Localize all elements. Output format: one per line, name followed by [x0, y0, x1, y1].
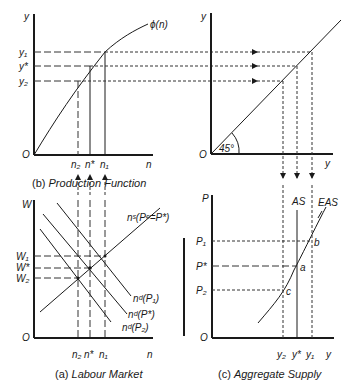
- wstar-tick: W*: [16, 262, 30, 273]
- w1-tick: W₁: [16, 251, 29, 262]
- n1-tick: n₁: [100, 159, 109, 170]
- origin-label: O: [200, 332, 208, 343]
- point-a: a: [300, 262, 306, 273]
- labour-demand-p2: [40, 229, 111, 322]
- p-axis-label: P: [202, 193, 209, 204]
- nstar-tick: n*: [85, 159, 96, 170]
- w2-tick: W₂: [16, 273, 29, 284]
- y1-tick: y₁: [305, 349, 314, 360]
- labour-demand-p1: [57, 203, 131, 296]
- angle-label: 45°: [219, 143, 234, 154]
- supply-label: nˢ(Pᵉ=P*): [127, 212, 169, 223]
- production-curve: [34, 24, 148, 155]
- caption: (a) Labour Market: [55, 368, 143, 380]
- point-b: b: [314, 237, 320, 248]
- ystar-tick: y*: [291, 349, 302, 360]
- x-axis-label: y: [325, 349, 332, 360]
- n-axis-label: n: [147, 349, 153, 360]
- economic-model-diagram: y O n ϕ(n) y₁ y* y₂ n₂ n* n₁ (b) Product…: [0, 0, 354, 383]
- y-axis-label: y: [23, 11, 30, 22]
- demand-label-p2: nᵈ(P₂): [122, 322, 149, 333]
- pstar-tick: P*: [196, 261, 208, 272]
- caption: (b) Production Function: [32, 177, 146, 189]
- eas-label: EAS: [318, 197, 338, 208]
- origin-label: O: [199, 149, 207, 160]
- y2-tick: y₂: [276, 349, 286, 360]
- w-axis-label: W: [22, 199, 33, 210]
- n2-tick: n₂: [71, 159, 81, 170]
- y1-tick: y₁: [18, 47, 27, 58]
- caption: (c) Aggregate Supply: [218, 368, 323, 380]
- point-c: c: [286, 286, 291, 297]
- n1-tick: n₁: [99, 349, 108, 360]
- n-axis-label: n: [146, 159, 152, 170]
- ystar-tick: y*: [18, 61, 29, 72]
- p2-tick: P₂: [196, 285, 207, 296]
- transfer-arrows: [78, 52, 312, 81]
- origin-label: O: [22, 149, 30, 160]
- origin-label: O: [22, 332, 30, 343]
- aggregate-supply-panel: P O y P₁ P* P₂ y₂ y* y₁ AS EAS b a c (c)…: [184, 185, 338, 380]
- x-axis-label: y: [324, 158, 331, 169]
- eas-curve: [258, 207, 326, 323]
- y-axis-label: y: [200, 11, 207, 22]
- demand-label-pstar: nᵈ(P*): [128, 309, 155, 320]
- nstar-tick: n*: [84, 349, 95, 360]
- curve-label: ϕ(n): [150, 19, 168, 30]
- demand-label-p1: nᵈ(P₁): [133, 293, 159, 304]
- n2-tick: n₂: [72, 349, 82, 360]
- production-function-panel: y O n ϕ(n) y₁ y* y₂ n₂ n* n₁ (b) Product…: [18, 11, 168, 195]
- p1-tick: P₁: [196, 236, 206, 247]
- reflection-panel: y O y 45°: [199, 11, 341, 178]
- labour-market-panel: W O n W₁ W* W₂ n₂ n* n₁ nˢ(Pᵉ=P*) nᵈ(P₁)…: [16, 199, 169, 380]
- 45-degree-line: [211, 20, 341, 154]
- as-label: AS: [291, 196, 306, 207]
- y2-tick: y₂: [18, 76, 28, 87]
